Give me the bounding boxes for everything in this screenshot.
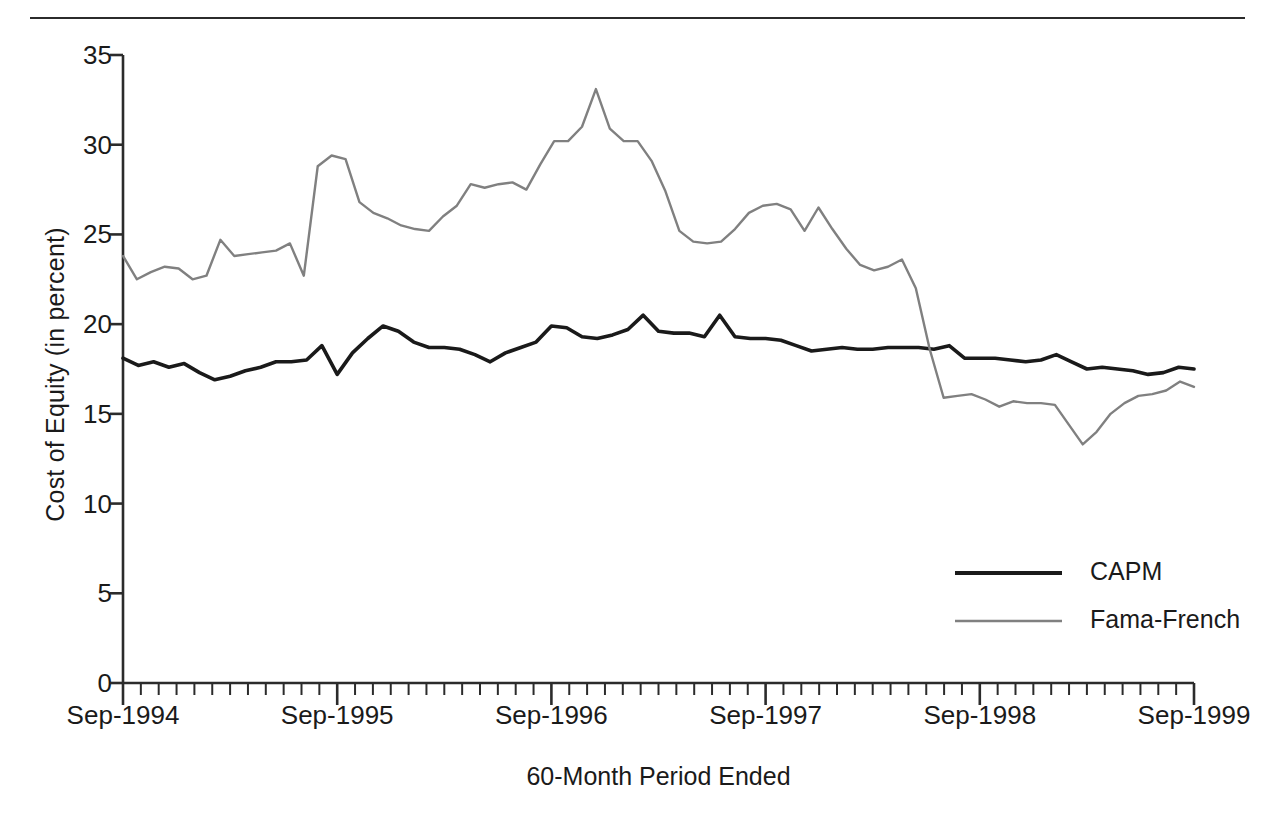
chart-figure: Cost of Equity (in percent) 60-Month Per…	[0, 0, 1277, 821]
series-line-capm	[123, 315, 1194, 380]
plot-area	[0, 0, 1277, 821]
series-line-fama-french	[123, 89, 1194, 444]
